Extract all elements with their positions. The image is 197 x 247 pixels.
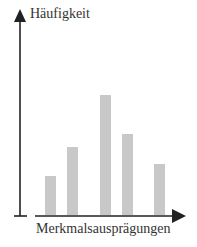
- bars: [45, 95, 165, 215]
- y-axis-arrow-icon: [14, 9, 26, 22]
- bar-chart-plot: [0, 0, 197, 247]
- bar-5: [154, 164, 165, 215]
- x-axis-arrow-icon: [172, 209, 186, 223]
- bar-2: [67, 147, 78, 215]
- bar-4: [122, 134, 133, 215]
- bar-1: [45, 176, 56, 215]
- bar-3: [100, 95, 111, 215]
- x-axis-label: Merkmalsausprägungen: [36, 221, 171, 237]
- y-axis-label: Häufigkeit: [30, 6, 90, 22]
- chart: Häufigkeit Merkmalsausprägungen: [0, 0, 197, 247]
